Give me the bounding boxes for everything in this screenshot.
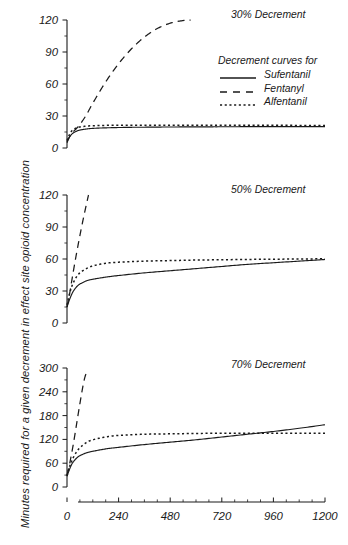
x-axis-plot xyxy=(0,0,348,545)
x-tick-label-1: 240 xyxy=(97,510,141,522)
x-tick-label-5: 1200 xyxy=(303,510,347,522)
x-tick-label-2: 480 xyxy=(148,510,192,522)
x-tick-label-4: 960 xyxy=(251,510,295,522)
decrement-curves-figure: Minutes required for a given decrement i… xyxy=(0,0,348,545)
x-tick-label-0: 0 xyxy=(45,510,89,522)
x-tick-label-3: 720 xyxy=(200,510,244,522)
